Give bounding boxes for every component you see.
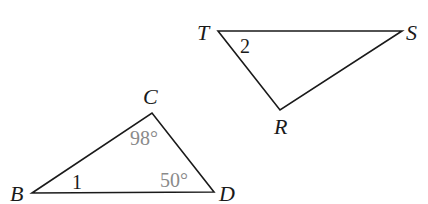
vertex-label-c: C	[143, 84, 158, 109]
vertex-label-d: D	[218, 181, 235, 204]
geometry-diagram: B C D 1 98° 50° T S R 2	[0, 0, 428, 204]
vertex-label-b: B	[10, 181, 23, 204]
vertex-label-s: S	[406, 20, 417, 45]
triangle-tsr: T S R 2	[197, 20, 417, 139]
angle-label-50-degrees: 50°	[160, 169, 188, 191]
vertex-label-t: T	[197, 20, 211, 45]
triangle-bcd: B C D 1 98° 50°	[10, 84, 235, 204]
angle-label-98-degrees: 98°	[130, 127, 158, 149]
angle-label-1: 1	[72, 171, 82, 193]
vertex-label-r: R	[273, 114, 288, 139]
angle-label-2: 2	[240, 35, 250, 57]
